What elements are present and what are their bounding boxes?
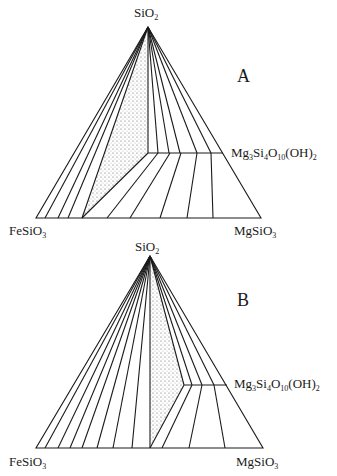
talc-a-p6: (OH) <box>285 145 312 160</box>
apex-label-b-sub: 2 <box>155 247 159 256</box>
left-label-a-sub: 3 <box>42 231 46 240</box>
talc-b-p2: Si <box>256 376 267 391</box>
left-label-b-sub: 3 <box>42 462 46 471</box>
left-label-b-base: FeSiO <box>9 454 42 469</box>
apex-label-a: SiO2 <box>134 6 158 19</box>
talc-b-p6: (OH) <box>288 376 315 391</box>
right-label-a-base: MgSiO <box>234 223 272 238</box>
ternary-diagram-a <box>0 0 337 476</box>
panel-label-a: A <box>237 66 250 87</box>
talc-b-p4: O <box>271 376 280 391</box>
apex-label-b: SiO2 <box>135 240 159 253</box>
talc-a-p0: Mg <box>231 145 249 160</box>
apex-label-a-sub: 2 <box>154 13 158 22</box>
talc-a-p4: O <box>268 145 277 160</box>
right-label-b-sub: 3 <box>274 462 278 471</box>
right-label-b: MgSiO3 <box>236 455 278 468</box>
panel-label-b: B <box>237 290 249 311</box>
talc-a-p2: Si <box>253 145 264 160</box>
right-label-a-sub: 3 <box>272 231 276 240</box>
right-label-b-base: MgSiO <box>236 454 274 469</box>
right-label-a: MgSiO3 <box>234 224 276 237</box>
talc-b-p7: 2 <box>316 384 320 393</box>
diagram-a-lines <box>36 27 261 218</box>
diagram-b-lines <box>36 256 263 448</box>
apex-label-b-base: SiO <box>135 239 155 254</box>
left-label-a-base: FeSiO <box>9 223 42 238</box>
apex-label-a-base: SiO <box>134 5 154 20</box>
talc-b-p0: Mg <box>234 376 252 391</box>
left-label-a: FeSiO3 <box>9 224 46 237</box>
left-label-b: FeSiO3 <box>9 455 46 468</box>
talc-label-a: Mg3Si4O10(OH)2 <box>231 146 317 159</box>
talc-label-b: Mg3Si4O10(OH)2 <box>234 377 320 390</box>
talc-a-p7: 2 <box>313 153 317 162</box>
